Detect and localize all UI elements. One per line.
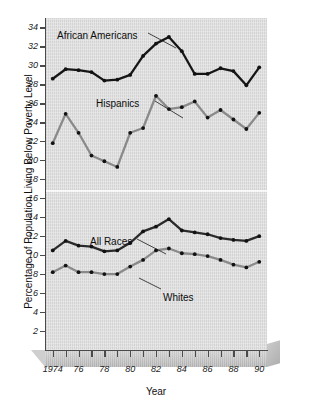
data-point [180,49,184,53]
data-point [167,247,171,251]
data-point [154,42,158,46]
data-point [141,126,145,130]
data-point [193,230,197,234]
series-lines-layer [0,0,310,415]
data-point [141,54,145,58]
data-point [232,263,236,267]
data-point [64,239,68,243]
data-point [244,266,248,270]
data-point [77,131,81,135]
data-point [51,141,55,145]
data-point [244,239,248,243]
data-point [115,78,119,82]
data-point [257,234,261,238]
data-point [180,105,184,109]
data-point [219,66,223,70]
data-point [102,249,106,253]
data-point [77,68,81,72]
data-point [244,83,248,87]
series-label-whites: Whites [163,292,194,303]
data-point [102,79,106,83]
data-point [232,69,236,73]
data-point [257,260,261,264]
series-line [53,219,260,251]
data-point [51,249,55,253]
series-all-races [51,217,261,253]
data-point [64,264,68,268]
data-point [219,236,223,240]
data-point [128,73,132,77]
data-point [64,67,68,71]
data-point [232,118,236,122]
data-point [206,232,210,236]
data-point [154,94,158,98]
data-point [206,254,210,258]
series-whites [51,247,261,276]
series-label-hispanics: Hispanics [96,98,139,109]
data-point [102,272,106,276]
data-point [257,111,261,115]
data-point [51,77,55,81]
data-point [193,252,197,256]
data-point [232,238,236,242]
data-point [141,258,145,262]
data-point [90,270,94,274]
data-point [257,65,261,69]
data-point [193,100,197,104]
data-point [219,108,223,112]
data-point [244,127,248,131]
data-point [128,131,132,135]
data-point [180,251,184,255]
series-hispanics [51,94,261,169]
series-line [53,249,260,275]
series-line [53,96,260,167]
data-point [193,72,197,76]
annotation-leader-line [155,101,183,118]
annotation-leader-line [137,239,166,254]
data-point [141,230,145,234]
data-point [90,154,94,158]
data-point [115,165,119,169]
data-point [90,70,94,74]
data-point [167,217,171,221]
data-point [219,258,223,262]
poverty-line-chart: 246810121416182022242628303234 197476788… [0,0,310,415]
data-point [102,159,106,163]
annotation-leader-line [139,278,161,289]
series-label-all-races: All Races [90,236,132,247]
data-point [180,229,184,233]
data-point [167,35,171,39]
data-point [64,112,68,116]
series-label-african-americans: African Americans [57,30,138,41]
data-point [77,270,81,274]
data-point [154,225,158,229]
data-point [206,72,210,76]
data-point [115,249,119,253]
series-african-americans [51,35,261,87]
data-point [51,270,55,274]
data-point [115,272,119,276]
data-point [206,116,210,120]
data-point [77,244,81,248]
data-point [128,265,132,269]
